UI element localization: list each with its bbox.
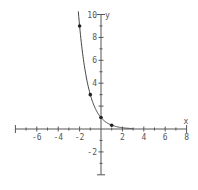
y-axis-label: y [105,11,110,20]
x-tick-label: 8 [184,133,189,142]
data-point [78,24,82,28]
data-point [110,123,114,127]
data-point [89,93,93,97]
y-tick-label: 8 [92,33,97,42]
y-tick-label: 6 [92,56,97,65]
data-point [99,116,103,120]
x-tick-label: 4 [141,133,146,142]
y-tick-label: 4 [92,79,97,88]
x-tick-label: 6 [163,133,168,142]
x-tick-label: 2 [120,133,125,142]
exponential-curve [78,11,133,128]
x-axis-label: x [184,117,189,126]
x-tick-label: -2 [75,133,85,142]
x-tick-label: -6 [32,133,42,142]
function-graph: -6-4-22468-246810 x y [0,0,198,190]
y-tick-label: -2 [87,148,97,157]
x-tick-label: -4 [53,133,63,142]
tick-labels: -6-4-22468-246810 [32,11,189,157]
y-tick-label: 10 [87,11,97,20]
